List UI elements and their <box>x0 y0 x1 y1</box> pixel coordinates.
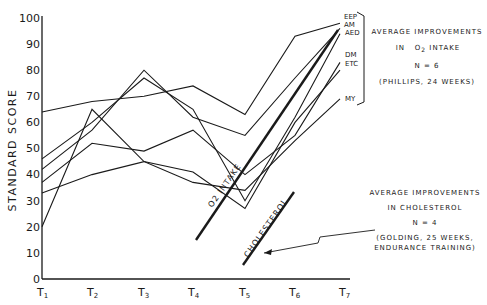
annotation-o2-line4: (PHILLIPS, 24 WEEKS) <box>368 74 486 90</box>
o2-intake-trend-line <box>196 30 338 240</box>
label-etc: ETC <box>345 60 358 68</box>
y-axis-title: STANDARD SCORE <box>6 89 19 212</box>
annotation-o2-line3: N = 6 <box>368 58 486 74</box>
label-am: AM <box>344 21 355 29</box>
annotation-o2-intake-word: INTAKE <box>429 44 460 52</box>
series-labels: EEP AM AED DM ETC MY <box>344 13 360 103</box>
x-tick-t1: T1 <box>36 286 48 300</box>
annotation-o2-in: IN <box>396 44 405 52</box>
series-bracket <box>357 12 364 105</box>
y-tick-30: 30 <box>26 195 40 208</box>
annotation-cholesterol: AVERAGE IMPROVEMENTS IN CHOLESTEROL N = … <box>366 186 484 253</box>
label-aed: AED <box>345 29 360 37</box>
series-line-eep <box>42 23 340 114</box>
annotation-o2-intake: AVERAGE IMPROVEMENTS IN O2 INTAKE N = 6 … <box>368 24 486 90</box>
x-tick-t7: T7 <box>338 286 350 300</box>
annotation-o2-line1: AVERAGE IMPROVEMENTS <box>368 24 486 40</box>
y-tick-20: 20 <box>26 221 40 234</box>
annotation-arrow-line <box>264 230 375 253</box>
y-tick-80: 80 <box>26 64 40 77</box>
annotation-chol-line1: AVERAGE IMPROVEMENTS <box>366 186 484 201</box>
label-my: MY <box>345 95 356 103</box>
annotation-chol-line3: N = 4 <box>366 216 484 231</box>
label-dm: DM <box>345 51 356 59</box>
y-tick-90: 90 <box>26 38 40 51</box>
y-tick-60: 60 <box>26 116 40 129</box>
x-tick-t2: T2 <box>86 286 98 300</box>
data-series <box>42 23 340 227</box>
x-tick-t5: T5 <box>238 286 250 300</box>
x-tick-labels: T1 T2 T3 T4 T5 T6 T7 <box>36 286 350 300</box>
x-tick-t6: T6 <box>288 286 301 300</box>
y-tick-50: 50 <box>26 142 40 155</box>
x-tick-t3: T3 <box>137 286 149 300</box>
annotation-chol-line2: IN CHOLESTEROL <box>366 201 484 216</box>
annotation-o2-sub: 2 <box>421 46 426 53</box>
series-line-am <box>42 28 340 169</box>
y-tick-0: 0 <box>33 273 40 286</box>
y-tick-labels: 0 10 20 30 40 50 60 70 80 90 100 <box>19 12 40 286</box>
label-eep: EEP <box>344 13 357 21</box>
series-line-my <box>42 99 340 193</box>
annotation-chol-line4: (GOLDING, 25 WEEKS, <box>366 233 484 243</box>
series-line-aed <box>42 34 340 201</box>
annotation-o2-line2: IN O2 INTAKE <box>368 40 486 58</box>
arrowhead-icon <box>264 249 272 255</box>
x-tick-t4: T4 <box>187 286 200 300</box>
y-tick-100: 100 <box>19 12 40 25</box>
y-tick-70: 70 <box>26 90 40 103</box>
y-tick-40: 40 <box>26 168 40 181</box>
annotation-chol-line5: ENDURANCE TRAINING) <box>366 243 484 253</box>
y-tick-10: 10 <box>26 247 40 260</box>
